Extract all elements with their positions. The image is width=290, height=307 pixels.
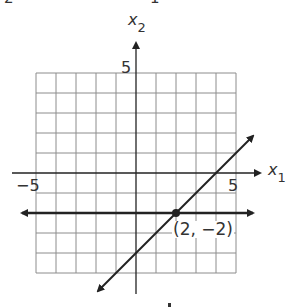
header-fragment-center: 1 — [150, 0, 160, 6]
graph-canvas — [0, 0, 290, 307]
header-fragment-left: 2 — [4, 0, 14, 6]
y-tick-5: 5 — [121, 60, 131, 76]
x-axis-label-sub: 1 — [277, 170, 285, 185]
point-label: (2, −2) — [172, 221, 234, 238]
diagonal-line-down — [98, 213, 176, 291]
y-axis-label: x2 — [128, 12, 146, 28]
x-tick-5: 5 — [228, 178, 238, 194]
diagonal-line-up — [176, 136, 253, 213]
y-axis-label-sub: 2 — [137, 20, 145, 35]
x-axis-label: x1 — [268, 162, 286, 178]
intersection-point — [172, 209, 180, 217]
x-tick-neg5: −5 — [16, 178, 40, 194]
coordinate-graph: 2 1 x2 x1 5 −5 5 (2, −2) — [0, 0, 290, 307]
bottom-mark — [168, 303, 171, 307]
